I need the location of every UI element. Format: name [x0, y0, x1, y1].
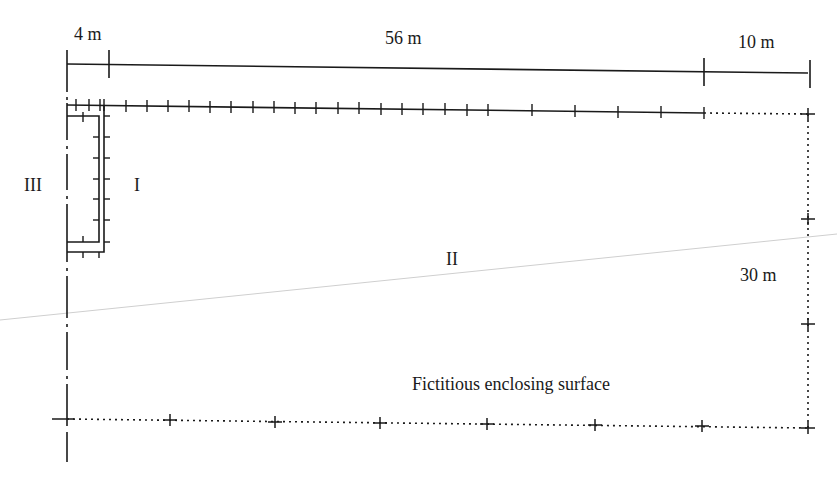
building-wall-ticks [83, 112, 110, 258]
top-wall-measurement-line [67, 105, 704, 113]
dimension-label-4m: 4 m [74, 24, 102, 44]
region-label-i: I [134, 175, 140, 195]
region-label-ii: II [446, 249, 458, 269]
region-label-iii: III [24, 175, 42, 195]
dimension-label-56m: 56 m [385, 28, 422, 48]
dotted-top-segment [704, 113, 808, 114]
dimension-label-30m: 30 m [740, 265, 777, 285]
site-plan-svg: 4 m 56 m 10 m [0, 0, 837, 485]
faint-background-line [0, 234, 837, 320]
diagram-canvas: 4 m 56 m 10 m [0, 0, 837, 485]
fictitious-surface-label: Fictitious enclosing surface [412, 374, 610, 394]
dimension-label-10m: 10 m [738, 32, 775, 52]
dimension-line [67, 50, 810, 88]
